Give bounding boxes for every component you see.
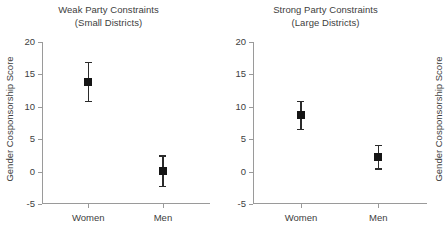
y-axis-tick — [249, 42, 253, 43]
panel-title-line1: Weak Party Constraints — [0, 4, 217, 17]
y-axis-tick-label: 20 — [235, 37, 246, 47]
error-bar-cap-lower — [159, 186, 166, 187]
plot-area: 20151050-5WomenMen — [42, 42, 210, 204]
y-axis-tick-label: 5 — [241, 134, 246, 144]
y-axis-tick — [38, 42, 42, 43]
y-axis-tick-label: 10 — [235, 102, 246, 112]
data-point-marker — [374, 153, 382, 161]
y-axis-tick-label: 5 — [30, 134, 35, 144]
x-axis-tick — [163, 204, 164, 208]
x-axis-tick-label: Women — [285, 212, 318, 223]
y-axis-tick — [249, 172, 253, 173]
y-axis-tick — [38, 139, 42, 140]
panel-title-line1: Strong Party Constraints — [217, 4, 434, 17]
error-bar-cap-upper — [85, 62, 92, 63]
panel-title-line2: (Small Districts) — [0, 17, 217, 30]
y-axis-tick — [249, 74, 253, 75]
x-axis-tick — [88, 204, 89, 208]
y-axis-tick — [249, 107, 253, 108]
error-bar-cap-lower — [85, 101, 92, 102]
y-axis-tick-label: -5 — [238, 199, 246, 209]
y-axis-tick-label: 15 — [24, 69, 35, 79]
data-point-marker — [159, 167, 167, 175]
panel-weak-party-constraints: Weak Party Constraints (Small Districts)… — [0, 0, 217, 238]
y-axis-tick-label: 15 — [235, 69, 246, 79]
x-axis-tick — [301, 204, 302, 208]
y-axis-spine — [253, 42, 254, 204]
data-point-marker — [84, 78, 92, 86]
y-axis-tick-label: 0 — [30, 167, 35, 177]
y-axis-tick — [38, 172, 42, 173]
x-axis-spine — [42, 203, 210, 204]
y-axis-label: Gender Cosponsorship Score — [431, 0, 447, 238]
panel-title: Strong Party Constraints (Large District… — [217, 4, 434, 29]
error-bar-cap-upper — [159, 155, 166, 156]
error-bar-cap-upper — [297, 101, 304, 102]
x-axis-spine — [253, 203, 427, 204]
error-bar-cap-lower — [297, 129, 304, 130]
y-axis-label: Gender Cosponsorship Score — [2, 0, 18, 238]
x-axis-tick-label: Women — [72, 212, 105, 223]
panel-title-line2: (Large Districts) — [217, 17, 434, 30]
y-axis-tick-label: 0 — [241, 167, 246, 177]
y-axis-tick-label: 20 — [24, 37, 35, 47]
x-axis-tick-label: Men — [154, 212, 172, 223]
y-axis-tick-label: 10 — [24, 102, 35, 112]
panel-strong-party-constraints: Strong Party Constraints (Large District… — [217, 0, 434, 238]
x-axis-tick — [378, 204, 379, 208]
data-point-marker — [297, 111, 305, 119]
y-axis-tick — [38, 74, 42, 75]
error-bar-cap-upper — [375, 145, 382, 146]
y-axis-tick — [249, 139, 253, 140]
plot-area: 20151050-5WomenMen — [253, 42, 427, 204]
y-axis-tick — [38, 107, 42, 108]
error-bar-cap-lower — [375, 168, 382, 169]
panel-title: Weak Party Constraints (Small Districts) — [0, 4, 217, 29]
y-axis-tick-label: -5 — [27, 199, 35, 209]
y-axis-tick — [38, 204, 42, 205]
y-axis-spine — [42, 42, 43, 204]
x-axis-tick-label: Men — [369, 212, 387, 223]
y-axis-tick — [249, 204, 253, 205]
